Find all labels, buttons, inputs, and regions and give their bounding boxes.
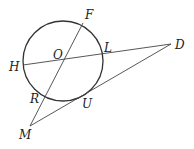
label-h: H (8, 60, 20, 74)
label-l: L (103, 41, 112, 55)
label-r: R (29, 92, 39, 106)
geometry-diagram: F O L D H R U M (0, 0, 194, 149)
label-d: D (174, 38, 185, 52)
segment-hd (23, 44, 171, 65)
label-f: F (84, 8, 94, 22)
label-u: U (82, 97, 93, 111)
label-o: O (53, 48, 63, 62)
label-m: M (18, 128, 32, 142)
